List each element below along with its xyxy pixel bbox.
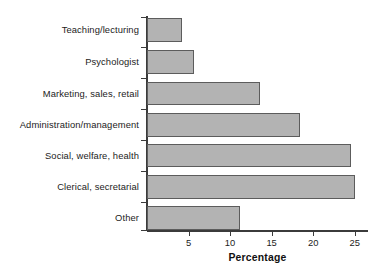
category-label-social-welfare-health: Social, welfare, health — [45, 151, 139, 161]
bar-other — [147, 206, 240, 230]
x-axis-tick-label: 15 — [266, 238, 276, 248]
y-axis-tick — [141, 140, 146, 141]
x-axis-tick-label: 5 — [186, 238, 191, 248]
y-axis-tick — [141, 47, 146, 48]
bar-social-welfare-health — [147, 144, 351, 168]
y-axis-tick — [141, 109, 146, 110]
category-label-psychologist: Psychologist — [85, 57, 139, 67]
x-axis-line — [147, 230, 368, 232]
x-axis-title: Percentage — [147, 252, 368, 263]
category-label-clerical-secretarial: Clerical, secretarial — [57, 182, 139, 192]
bar-teaching-lecturing — [147, 18, 182, 42]
bar-clerical-secretarial — [147, 175, 355, 199]
x-axis-tick — [230, 231, 231, 236]
y-axis-tick — [141, 17, 146, 18]
category-label-administration-management: Administration/management — [20, 120, 139, 130]
category-label-other: Other — [115, 213, 139, 223]
bar-marketing-sales-retail — [147, 82, 260, 106]
category-label-teaching-lecturing: Teaching/lecturing — [62, 25, 139, 35]
category-axis-labels: Teaching/lecturing Psychologist Marketin… — [0, 0, 139, 278]
y-axis-tick — [141, 230, 146, 231]
y-axis-tick — [141, 171, 146, 172]
x-axis-tick — [313, 231, 314, 236]
x-axis-tick-label: 10 — [225, 238, 235, 248]
bar-psychologist — [147, 50, 194, 74]
x-axis-tick — [355, 231, 356, 236]
y-axis-tick — [141, 78, 146, 79]
x-axis-tick — [272, 231, 273, 236]
x-axis-tick-label: 20 — [308, 238, 318, 248]
bar-administration-management — [147, 113, 300, 137]
x-axis-tick — [189, 231, 190, 236]
x-axis-tick-label: 25 — [349, 238, 359, 248]
category-label-marketing-sales-retail: Marketing, sales, retail — [43, 89, 139, 99]
bar-chart: Teaching/lecturing Psychologist Marketin… — [0, 0, 376, 278]
y-axis-tick — [141, 202, 146, 203]
